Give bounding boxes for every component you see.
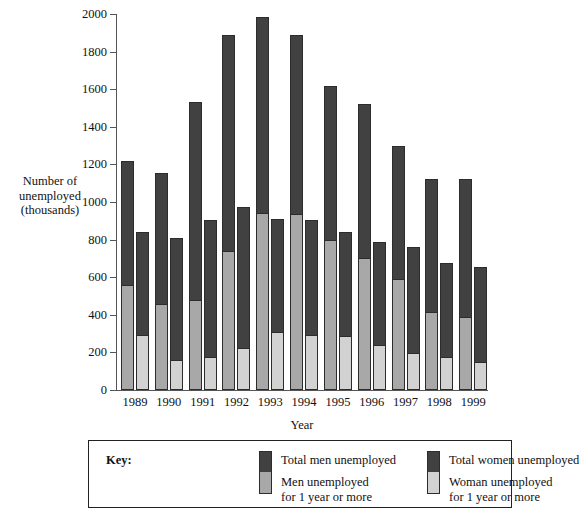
bar-women-1998-longterm-segment [440,357,453,390]
bar-women-1999-longterm-segment [474,362,487,390]
bar-group-1993 [256,14,284,390]
x-tick-label-1990: 1990 [156,395,181,410]
y-tick-mark [110,202,116,203]
y-tick-1600: 1600 [110,89,116,90]
bar-men-1995-longterm-segment [324,240,337,390]
bar-group-1989 [121,14,149,390]
x-axis-line [116,390,488,391]
y-tick-mark [110,89,116,90]
legend-swatch-women-total [428,452,439,473]
bar-men-1993-longterm-segment [256,213,269,390]
y-tick-1000: 1000 [110,202,116,203]
y-tick-mark [110,315,116,316]
x-tick-label-1997: 1997 [393,395,418,410]
y-tick-1400: 1400 [110,127,116,128]
y-tick-label: 1400 [82,119,107,134]
x-axis-title: Year [116,418,488,433]
bar-women-1995-longterm-segment [339,336,352,390]
x-tick-label-1995: 1995 [325,395,350,410]
bar-men-1991-longterm-segment [189,300,202,390]
y-tick-label: 1600 [82,82,107,97]
y-tick-label: 0 [101,383,107,398]
y-tick-label: 2000 [82,7,107,22]
y-tick-600: 600 [110,277,116,278]
legend-key-label: Key: [106,453,132,468]
legend: Key: Total men unemployed Total women un… [88,440,512,508]
legend-swatch-men-long [260,472,271,493]
y-tick-label: 600 [88,270,107,285]
y-tick-0: 0 [110,390,116,391]
bar-women-1991-longterm-segment [204,357,217,390]
y-tick-mark [110,127,116,128]
x-tick-label-1996: 1996 [359,395,384,410]
y-tick-label: 1800 [82,44,107,59]
y-tick-mark [110,240,116,241]
bar-group-1994 [290,14,318,390]
bar-women-1989-longterm-segment [136,335,149,390]
x-tick-label-1989: 1989 [123,395,148,410]
y-tick-label: 800 [88,232,107,247]
legend-label-men-long-line1: Men unemployed [281,475,372,490]
x-tick-label-1999: 1999 [461,395,486,410]
y-axis-line [116,14,117,391]
y-tick-2000: 2000 [110,14,116,15]
y-tick-mark [110,52,116,53]
bar-women-1997-longterm-segment [407,353,420,390]
y-tick-1200: 1200 [110,164,116,165]
y-tick-mark [110,14,116,15]
legend-label-total-men: Total men unemployed [281,453,396,468]
legend-label-total-women: Total women unemployed [449,453,579,468]
legend-swatch-women [427,451,440,494]
bar-group-1990 [155,14,183,390]
legend-label-total-men-text: Total men unemployed [281,453,396,467]
x-tick-label-1992: 1992 [224,395,249,410]
x-tick-label-1994: 1994 [292,395,317,410]
x-tick-label-1998: 1998 [427,395,452,410]
legend-label-women-long-line2: for 1 year or more [449,490,553,505]
legend-label-women-long-line1: Woman unemployed [449,475,553,490]
bar-group-1995 [324,14,352,390]
y-tick-800: 800 [110,240,116,241]
bar-group-1997 [392,14,420,390]
bar-men-1989-longterm-segment [121,285,134,390]
legend-swatch-men [259,451,272,494]
y-tick-mark [110,352,116,353]
bar-men-1998-longterm-segment [425,312,438,390]
bar-men-1992-longterm-segment [222,251,235,390]
x-tick-label-1993: 1993 [258,395,283,410]
x-tick-label-1991: 1991 [190,395,215,410]
y-tick-mark [110,164,116,165]
bar-group-1999 [459,14,487,390]
bar-group-1998 [425,14,453,390]
legend-swatch-women-long [428,472,439,493]
y-tick-label: 1200 [82,157,107,172]
y-tick-1800: 1800 [110,52,116,53]
legend-label-men-long: Men unemployed for 1 year or more [281,475,372,504]
legend-label-total-women-text: Total women unemployed [449,453,579,467]
legend-swatch-men-total [260,452,271,473]
bar-men-1994-longterm-segment [290,214,303,390]
bar-group-1992 [222,14,250,390]
y-tick-200: 200 [110,352,116,353]
bar-women-1992-longterm-segment [237,348,250,390]
y-tick-400: 400 [110,315,116,316]
y-tick-mark [110,277,116,278]
y-axis-title-line-1: Number of [2,174,98,189]
bar-men-1996-longterm-segment [358,258,371,390]
bar-women-1996-longterm-segment [373,345,386,390]
legend-label-men-long-line2: for 1 year or more [281,490,372,505]
bar-group-1991 [189,14,217,390]
bar-men-1999-longterm-segment [459,317,472,390]
bar-men-1997-longterm-segment [392,279,405,390]
plot-area: 0200400600800100012001400160018002000 19… [116,14,488,390]
bar-women-1994-longterm-segment [305,335,318,390]
y-tick-label: 1000 [82,195,107,210]
y-tick-label: 400 [88,307,107,322]
bar-women-1993-longterm-segment [271,332,284,390]
bar-group-1996 [358,14,386,390]
bar-men-1990-longterm-segment [155,304,168,390]
y-tick-mark [110,390,116,391]
legend-label-women-long: Woman unemployed for 1 year or more [449,475,553,504]
bar-women-1990-longterm-segment [170,360,183,390]
